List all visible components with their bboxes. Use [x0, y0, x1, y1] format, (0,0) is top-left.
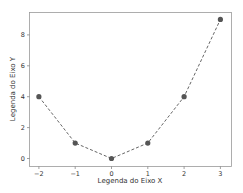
- data-point-marker: [218, 17, 223, 22]
- y-tick-label: 8: [21, 31, 25, 39]
- data-point-marker: [73, 140, 78, 145]
- x-axis-label: Legenda do Eixo X: [98, 177, 163, 185]
- chart: 02468 −2−10123 Legenda do Eixo X Legenda…: [0, 0, 243, 193]
- y-axis-label: Legenda do Eixo Y: [9, 56, 17, 121]
- x-tick-label: −2: [34, 170, 44, 178]
- x-tick-label: −1: [70, 170, 80, 178]
- data-point-marker: [145, 140, 150, 145]
- data-point-marker: [36, 94, 41, 99]
- y-tick-label: 4: [21, 93, 25, 101]
- y-tick-label: 6: [21, 62, 25, 70]
- data-point-marker: [182, 94, 187, 99]
- data-point-marker: [109, 156, 114, 161]
- y-axis-ticks: 02468: [21, 31, 30, 163]
- y-tick-label: 0: [21, 155, 25, 163]
- y-tick-label: 2: [21, 124, 25, 132]
- x-tick-label: 2: [182, 170, 186, 178]
- plot-area: [30, 13, 232, 167]
- x-tick-label: 3: [218, 170, 222, 178]
